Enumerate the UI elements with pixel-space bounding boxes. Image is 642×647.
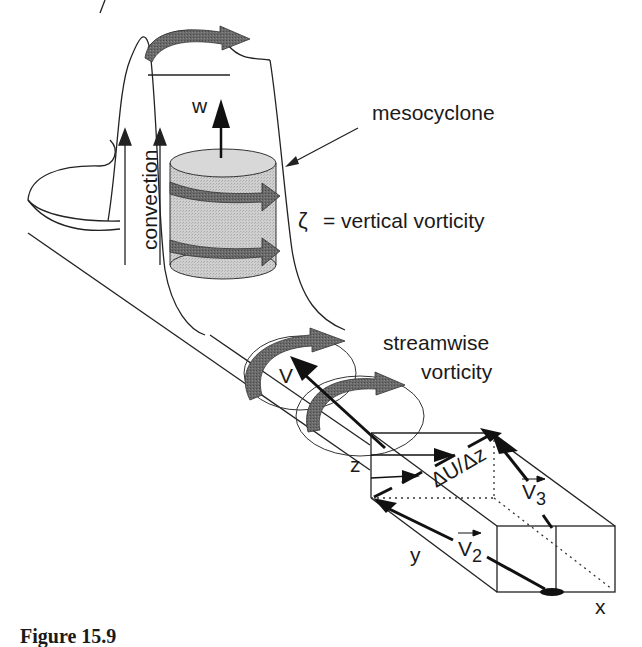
vertical-vorticity-label: = vertical vorticity bbox=[323, 209, 485, 232]
mesocyclone-label: mesocyclone bbox=[372, 101, 495, 124]
convection-label: convection bbox=[138, 150, 161, 250]
shear-box bbox=[371, 433, 615, 592]
v2-overarrow bbox=[458, 530, 481, 536]
mesocyclone-cylinder bbox=[170, 149, 276, 279]
x-axis-label: x bbox=[595, 595, 606, 618]
top-rotation-arrow bbox=[145, 26, 250, 62]
mesocyclone-pointer bbox=[285, 128, 358, 167]
v2-label: V2 bbox=[458, 537, 482, 566]
outflow-lobe bbox=[28, 0, 120, 230]
v-label: V bbox=[279, 364, 293, 387]
w-label: w bbox=[191, 94, 208, 117]
y-axis-label: y bbox=[410, 543, 421, 566]
streamwise-label-line2: vorticity bbox=[421, 360, 493, 383]
z-axis-label: z bbox=[350, 453, 361, 476]
figure-caption: Figure 15.9 bbox=[20, 626, 116, 646]
zeta-symbol: ζ bbox=[298, 208, 308, 233]
streamwise-label-line1: streamwise bbox=[383, 331, 489, 354]
v3-label: V3 bbox=[522, 480, 546, 509]
shear-box-hidden-edges bbox=[371, 440, 612, 589]
